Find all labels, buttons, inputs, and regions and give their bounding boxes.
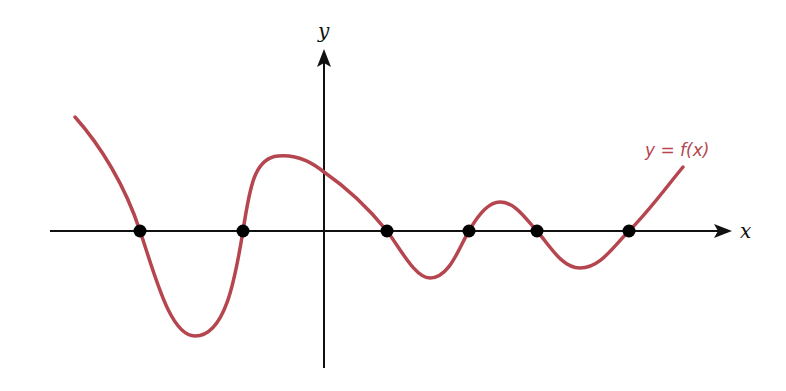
function-graph: x y y = f(x) xyxy=(0,0,786,391)
zero-point xyxy=(531,225,544,238)
zero-point xyxy=(623,225,636,238)
zero-point xyxy=(237,225,250,238)
x-axis-label: x xyxy=(740,219,751,243)
zero-point xyxy=(134,225,147,238)
zero-point xyxy=(381,225,394,238)
y-axis xyxy=(317,49,331,368)
function-label: y = f(x) xyxy=(644,140,709,160)
y-axis-label: y xyxy=(317,19,330,43)
function-curve xyxy=(75,117,683,336)
zero-point xyxy=(463,225,476,238)
